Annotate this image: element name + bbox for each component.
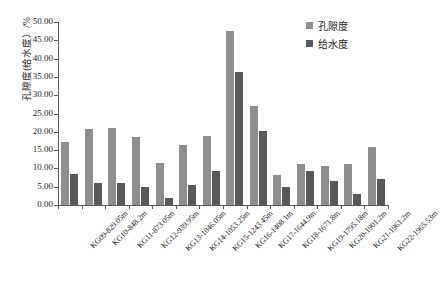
bar-porosity	[156, 163, 164, 205]
y-tick-label: 50.00	[33, 16, 53, 26]
bar-group	[131, 22, 150, 205]
y-tick-mark	[54, 77, 58, 78]
bar-porosity	[108, 128, 116, 205]
y-tick-mark	[54, 187, 58, 188]
bar-porosity	[85, 129, 93, 205]
x-tick-mark	[364, 205, 365, 209]
legend-label: 给水度	[318, 36, 348, 51]
x-tick-mark	[82, 205, 83, 209]
bar-specific-yield	[70, 174, 78, 205]
y-tick-mark	[54, 132, 58, 133]
x-tick-mark	[270, 205, 271, 209]
x-tick-mark	[176, 205, 177, 209]
x-tick-mark	[341, 205, 342, 209]
y-tick-mark	[54, 168, 58, 169]
y-tick-label: 45.00	[33, 34, 53, 44]
bar-group	[60, 22, 79, 205]
bar-porosity	[61, 142, 69, 205]
y-tick-label: 5.00	[37, 181, 53, 191]
bar-porosity	[273, 175, 281, 205]
bar-porosity	[203, 136, 211, 205]
y-tick-mark	[54, 22, 58, 23]
bar-specific-yield	[117, 183, 125, 205]
x-tick-mark	[199, 205, 200, 209]
bar-specific-yield	[94, 183, 102, 205]
bar-specific-yield	[377, 179, 385, 205]
bar-group	[272, 22, 291, 205]
x-tick-mark	[152, 205, 153, 209]
y-tick-mark	[54, 40, 58, 41]
bar-specific-yield	[353, 194, 361, 205]
x-tick-mark	[317, 205, 318, 209]
legend-item-porosity: 孔隙度	[306, 20, 348, 31]
bar-specific-yield	[282, 187, 290, 205]
bar-porosity	[321, 166, 329, 205]
bar-porosity	[344, 164, 352, 205]
bar-specific-yield	[141, 187, 149, 205]
bar-specific-yield	[306, 171, 314, 205]
y-tick-mark	[54, 114, 58, 115]
bar-group	[225, 22, 244, 205]
bar-specific-yield	[235, 72, 243, 205]
bar-specific-yield	[165, 198, 173, 205]
y-tick-mark	[54, 59, 58, 60]
x-tick-mark	[223, 205, 224, 209]
bar-group	[107, 22, 126, 205]
legend-label: 孔隙度	[318, 18, 348, 33]
y-tick-label: 35.00	[33, 71, 53, 81]
bar-group	[155, 22, 174, 205]
bar-porosity	[250, 106, 258, 205]
bar-porosity	[132, 137, 140, 205]
legend: 孔隙度 给水度	[306, 20, 348, 56]
bar-group	[367, 22, 386, 205]
x-tick-mark	[58, 205, 59, 209]
y-tick-label: 20.00	[33, 126, 53, 136]
x-tick-mark	[388, 205, 389, 209]
bar-group	[249, 22, 268, 205]
bar-porosity	[368, 147, 376, 205]
x-tick-mark	[105, 205, 106, 209]
y-tick-label: 40.00	[33, 53, 53, 63]
y-axis-title: 孔隙度(给水度）/%	[19, 0, 33, 129]
x-tick-mark	[129, 205, 130, 209]
bar-group	[202, 22, 221, 205]
bar-specific-yield	[188, 185, 196, 205]
bar-porosity	[179, 145, 187, 205]
bar-specific-yield	[330, 181, 338, 205]
legend-swatch-icon	[306, 40, 313, 47]
legend-item-specific-yield: 给水度	[306, 38, 348, 49]
x-tick-mark	[294, 205, 295, 209]
bar-porosity	[226, 31, 234, 205]
y-tick-label: 0.00	[37, 199, 53, 209]
bar-group	[178, 22, 197, 205]
y-tick-mark	[54, 150, 58, 151]
bar-specific-yield	[212, 171, 220, 205]
y-tick-label: 15.00	[33, 144, 53, 154]
legend-swatch-icon	[306, 22, 313, 29]
bar-group	[84, 22, 103, 205]
x-tick-mark	[247, 205, 248, 209]
y-tick-mark	[54, 95, 58, 96]
y-tick-label: 10.00	[33, 162, 53, 172]
bar-specific-yield	[259, 131, 267, 205]
bar-porosity	[297, 164, 305, 205]
y-tick-label: 25.00	[33, 108, 53, 118]
y-tick-label: 30.00	[33, 89, 53, 99]
